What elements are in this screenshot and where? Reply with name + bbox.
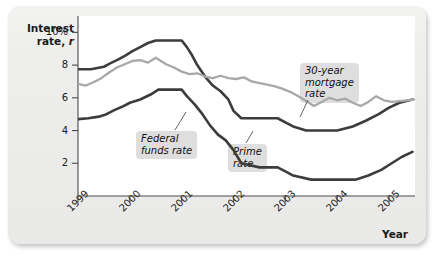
series-line	[78, 41, 412, 131]
leader-line-mortgage	[300, 100, 308, 117]
series-line	[78, 90, 412, 180]
series-layer	[78, 41, 415, 180]
chart-figure: Interest rate, r Year 10%8642 1999200020…	[0, 0, 448, 256]
axes-layer	[72, 16, 415, 202]
chart-canvas	[0, 0, 448, 256]
series-line	[78, 58, 415, 106]
leader-line-prime	[246, 131, 253, 143]
leader-line-federal	[175, 112, 186, 130]
